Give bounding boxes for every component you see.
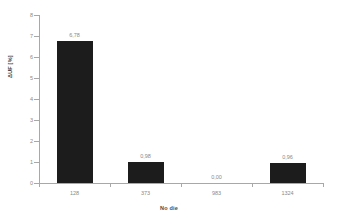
bar-value-label: 6,78 xyxy=(69,32,80,38)
y-tick-label: 2 xyxy=(0,138,33,144)
bar xyxy=(57,41,93,183)
bar-value-label: 0,96 xyxy=(282,154,293,160)
y-tick-label: 3 xyxy=(0,117,33,123)
x-category-label: 1324 xyxy=(281,190,293,196)
bars-layer xyxy=(39,15,323,183)
bar-value-label: 0,00 xyxy=(211,174,222,180)
x-category-label: 128 xyxy=(70,190,79,196)
x-tick xyxy=(323,183,324,187)
x-tick xyxy=(110,183,111,187)
y-tick-label: 8 xyxy=(0,12,33,18)
y-tick-label: 6 xyxy=(0,54,33,60)
bar-value-label: 0,98 xyxy=(140,153,151,159)
x-tick xyxy=(181,183,182,187)
y-tick-label: 0 xyxy=(0,180,33,186)
bar-chart: 012345678 6,780,980,000,96 1283739831324… xyxy=(0,0,338,224)
x-tick xyxy=(39,183,40,187)
bar xyxy=(128,162,164,183)
y-tick-label: 4 xyxy=(0,96,33,102)
bar xyxy=(270,163,306,183)
x-category-label: 373 xyxy=(141,190,150,196)
x-axis-title: No die xyxy=(0,205,338,211)
x-category-label: 983 xyxy=(212,190,221,196)
y-axis-title: ΔUF [%] xyxy=(7,55,13,78)
y-tick-label: 7 xyxy=(0,33,33,39)
y-tick-label: 5 xyxy=(0,75,33,81)
y-tick-label: 1 xyxy=(0,159,33,165)
x-tick xyxy=(252,183,253,187)
